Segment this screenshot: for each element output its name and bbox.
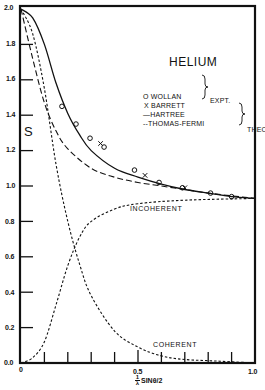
legend-wollan: O WOLLAN <box>143 93 182 100</box>
legend-hartree: —HARTREE <box>143 111 185 118</box>
x-axis-ticks <box>44 350 231 363</box>
x-tick-label-0: 0 <box>19 366 23 373</box>
y-tick-label-0.8: 0.8 <box>5 218 14 225</box>
y-tick-label-1.8: 1.8 <box>6 40 15 47</box>
legend-thomas-fermi: --THOMAS-FERMI <box>143 120 205 127</box>
coherent-curve <box>21 9 255 363</box>
theory-brace <box>239 103 245 125</box>
y-tick-label-1.2: 1.2 <box>6 146 15 153</box>
y-tick-label-1.6: 1.6 <box>6 75 15 82</box>
incoherent-label: INCOHERENT <box>130 205 182 212</box>
y-tick-label-0.0: 0.0 <box>4 359 13 366</box>
y-tick-label-0.6: 0.6 <box>5 253 14 260</box>
x-axis-label-text: SINθ/2 <box>141 377 162 384</box>
y-tick-label-1.0: 1.0 <box>6 182 15 189</box>
coherent-label: COHERENT <box>153 341 197 348</box>
x-tick-label-1.0: 1.0 <box>248 368 257 375</box>
one-over-lambda-icon: 1λ <box>135 375 140 386</box>
curves <box>21 9 255 363</box>
wollan-marker <box>60 104 65 109</box>
barrett-marker <box>98 141 103 146</box>
chart-title: HELIUM <box>169 55 217 69</box>
plot-frame <box>20 6 255 363</box>
legend-theory-label: THEORY <box>247 126 265 133</box>
chart-canvas <box>0 0 265 390</box>
expt-brace <box>202 75 208 99</box>
wollan-marker <box>88 136 93 141</box>
legend-barrett: X BARRETT <box>144 102 185 109</box>
y-tick-label-1.4: 1.4 <box>6 111 15 118</box>
legend-expt-label: EXPT. <box>210 97 230 104</box>
wollan-marker <box>132 168 137 173</box>
x-axis-label: 1λ SINθ/2 <box>135 375 162 386</box>
y-tick-label-0.2: 0.2 <box>5 324 14 331</box>
data-markers <box>60 104 234 199</box>
y-axis-ticks <box>20 44 33 327</box>
y-tick-label-0.4: 0.4 <box>5 289 14 296</box>
incoherent-curve <box>21 198 255 363</box>
y-tick-label-2.0: 2.0 <box>4 4 13 11</box>
barrett-marker <box>143 173 148 178</box>
y-axis-label: S <box>24 124 33 139</box>
wollan-marker <box>74 122 79 127</box>
